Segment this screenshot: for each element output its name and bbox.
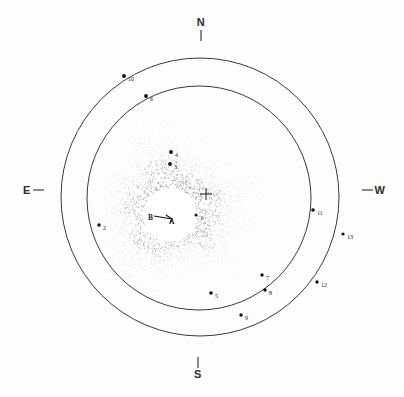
- star-marker-5: 5: [209, 291, 218, 299]
- west-label: W: [375, 184, 386, 196]
- star-marker-2: 2: [97, 223, 106, 231]
- star-marker-12: 12: [315, 280, 327, 288]
- star-dot-13: [341, 232, 344, 235]
- label-A: A: [169, 217, 175, 226]
- star-label-6: 6: [150, 96, 153, 102]
- star-label-13: 13: [347, 234, 353, 240]
- star-dot-9: [239, 313, 242, 316]
- label-B: B: [148, 213, 153, 222]
- east-label: E: [23, 184, 31, 196]
- north-label: N: [197, 16, 205, 28]
- star-label-9: 9: [245, 315, 248, 321]
- star-label-4: 4: [175, 152, 178, 158]
- star-dot-4: [169, 150, 173, 154]
- star-label-2: 2: [103, 225, 106, 231]
- star-dot-11: [311, 208, 315, 212]
- star-marker-8: 8: [263, 288, 272, 296]
- comparison-star-group: 12345678910111213: [97, 74, 353, 321]
- star-dot-12: [315, 280, 318, 283]
- star-dot-10: [122, 74, 126, 78]
- cardinal-direction-group: NEWS: [23, 16, 385, 380]
- star-marker-7: 7: [260, 273, 269, 281]
- star-dot-3: [168, 162, 172, 166]
- star-label-10: 10: [128, 76, 134, 82]
- star-marker-11: 11: [311, 208, 323, 216]
- star-label-7: 7: [266, 275, 269, 281]
- chart-canvas: NEWS BA 12345678910111213: [0, 0, 404, 397]
- star-marker-9: 9: [239, 313, 248, 321]
- star-dot-7: [260, 273, 263, 276]
- south-label: S: [194, 368, 202, 380]
- star-label-1: 1: [200, 215, 203, 221]
- inner-ring: [87, 86, 311, 310]
- star-dot-6: [144, 94, 148, 98]
- star-marker-13: 13: [341, 232, 353, 240]
- star-label-3: 3: [174, 164, 177, 170]
- star-dot-2: [97, 223, 100, 226]
- outer-ring: [61, 58, 339, 336]
- star-dot-8: [263, 288, 266, 291]
- star-label-11: 11: [317, 210, 323, 216]
- star-label-5: 5: [215, 293, 218, 299]
- ring-group: [61, 58, 339, 336]
- star-dot-1: [195, 214, 198, 217]
- observation-chart: NEWS BA 12345678910111213: [0, 0, 404, 397]
- star-dot-5: [209, 291, 213, 295]
- star-label-8: 8: [269, 290, 272, 296]
- star-label-12: 12: [321, 282, 327, 288]
